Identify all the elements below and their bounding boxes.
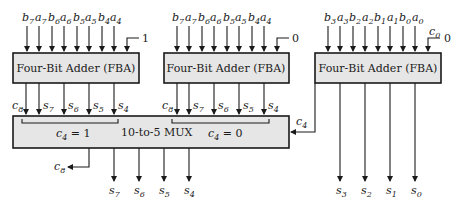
svg-text:a0: a0 — [412, 11, 424, 26]
svg-text:b4: b4 — [248, 11, 260, 26]
input-a7: a7 — [35, 11, 48, 26]
carry-in-c0-value: 0 — [444, 32, 451, 45]
svg-text:a4: a4 — [260, 11, 272, 26]
svg-text:s5: s5 — [93, 99, 104, 114]
adder-2-label: Four-Bit Adder (FBA) — [167, 62, 286, 75]
svg-text:a3: a3 — [337, 11, 349, 26]
group-c4-eq-0: c4 = 0 — [208, 127, 242, 142]
svg-text:s5: s5 — [243, 99, 254, 114]
svg-text:a6: a6 — [210, 11, 222, 26]
input-a6: a6 — [60, 11, 72, 26]
adder-2-outputs: c8 s7 s6 s5 s4 — [162, 83, 279, 114]
svg-text:b1: b1 — [374, 11, 386, 26]
svg-text:s3: s3 — [336, 184, 347, 199]
carry-in-1: 1 — [142, 32, 149, 45]
svg-text:s6: s6 — [134, 184, 145, 199]
svg-text:s0: s0 — [411, 184, 422, 199]
svg-text:a2: a2 — [362, 11, 374, 26]
svg-text:b0: b0 — [399, 11, 411, 26]
adder-1-label: Four-Bit Adder (FBA) — [17, 62, 136, 75]
select-c4-wire: c4 — [291, 83, 315, 132]
svg-text:a1: a1 — [387, 11, 399, 26]
svg-text:c8: c8 — [12, 99, 23, 114]
svg-text:b2: b2 — [349, 11, 361, 26]
svg-text:c8: c8 — [54, 160, 65, 175]
svg-text:s6: s6 — [218, 99, 229, 114]
input-b7: b7 — [22, 11, 35, 26]
svg-text:s6: s6 — [68, 99, 79, 114]
svg-text:s2: s2 — [361, 184, 372, 199]
carry-in-0: 0 — [292, 32, 299, 45]
input-a4: a4 — [110, 11, 122, 26]
svg-text:s7: s7 — [193, 99, 205, 114]
svg-text:a7: a7 — [185, 11, 198, 26]
svg-text:a5: a5 — [235, 11, 247, 26]
svg-text:b5: b5 — [223, 11, 235, 26]
adder-3-label: Four-Bit Adder (FBA) — [319, 62, 438, 75]
svg-text:c8: c8 — [162, 99, 173, 114]
svg-text:b6: b6 — [198, 11, 210, 26]
mux-label: 10-to-5 MUX — [121, 126, 193, 139]
svg-text:s4: s4 — [184, 184, 195, 199]
svg-text:s5: s5 — [159, 184, 170, 199]
svg-text:s4: s4 — [118, 99, 129, 114]
svg-text:s7: s7 — [43, 99, 55, 114]
input-a5: a5 — [85, 11, 97, 26]
input-b6: b6 — [48, 11, 60, 26]
carry-select-adder-diagram: b7 a7 b6 a6 b5 a5 b4 a4 1 Four-Bit Adder… — [0, 0, 457, 206]
input-b4: b4 — [98, 11, 110, 26]
adder-3-inputs: b3 a3 b2 a2 b1 a1 b0 a0 c0 0 — [324, 11, 451, 51]
svg-text:b7: b7 — [172, 11, 185, 26]
adder-1-inputs: b7 a7 b6 a6 b5 a5 b4 a4 1 — [22, 11, 149, 51]
input-b5: b5 — [73, 11, 85, 26]
adder-1-outputs: c8 s7 s6 s5 s4 — [12, 83, 129, 114]
svg-text:b3: b3 — [324, 11, 336, 26]
svg-text:s7: s7 — [109, 184, 121, 199]
svg-text:c4: c4 — [296, 115, 307, 130]
mux-outputs: c8 s7 s6 s5 s4 — [54, 148, 195, 199]
svg-text:s4: s4 — [268, 99, 279, 114]
group-c4-eq-1: c4 = 1 — [56, 127, 90, 142]
adder-3-outputs: s3 s2 s1 s0 — [336, 83, 422, 199]
svg-text:s1: s1 — [386, 184, 397, 199]
adder-2-inputs: b7 a7 b6 a6 b5 a5 b4 a4 0 — [172, 11, 299, 51]
